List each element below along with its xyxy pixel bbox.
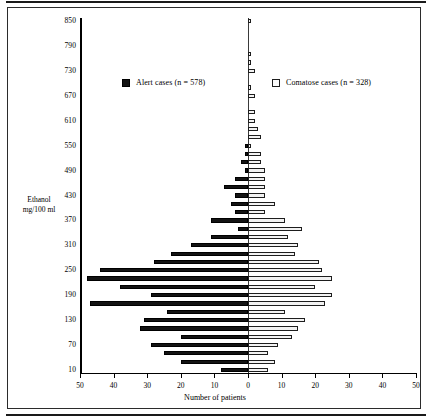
x-axis-tick	[80, 373, 81, 378]
open-square-swatch-icon	[272, 79, 280, 87]
x-axis-tick	[382, 373, 383, 378]
bar-comatose	[248, 85, 251, 89]
y-axis-tick-label: 490	[42, 167, 76, 175]
bar-alert	[211, 235, 248, 239]
bar-comatose	[248, 110, 255, 114]
y-axis-tick-label: 850	[42, 17, 76, 25]
bar-alert	[191, 243, 248, 247]
bar-comatose	[248, 276, 332, 280]
y-axis-tick-label: 310	[42, 241, 76, 249]
x-axis-tick	[147, 373, 148, 378]
bar-comatose	[248, 310, 285, 314]
x-axis-tick-label: 40	[369, 381, 395, 390]
bar-comatose	[248, 268, 322, 272]
bar-comatose	[248, 326, 298, 330]
bar-alert	[164, 351, 248, 355]
y-axis-tick-label: 250	[42, 266, 76, 274]
x-axis-tick-label: 20	[302, 381, 328, 390]
bar-comatose	[248, 343, 278, 347]
bar-comatose	[248, 285, 315, 289]
x-axis-tick	[248, 373, 249, 378]
x-axis-tick	[282, 373, 283, 378]
bar-alert	[235, 177, 248, 181]
bar-comatose	[248, 94, 255, 98]
y-axis-title-line1: Ethanol	[8, 195, 70, 205]
bar-comatose	[248, 260, 319, 264]
bar-alert	[221, 368, 248, 372]
filled-square-swatch-icon	[122, 79, 130, 87]
legend-item-alert: Alert cases (n = 578)	[122, 78, 205, 87]
bar-comatose	[248, 144, 251, 148]
bar-comatose	[248, 368, 268, 372]
x-axis-tick	[181, 373, 182, 378]
bar-alert	[100, 268, 248, 272]
x-axis-tick	[349, 373, 350, 378]
y-axis-tick-label: 730	[42, 67, 76, 75]
legend-item-comatose: Comatose cases (n = 328)	[272, 78, 371, 87]
bar-alert	[211, 218, 248, 222]
bar-alert	[90, 301, 248, 305]
x-axis-tick-label: 10	[269, 381, 295, 390]
bar-comatose	[248, 335, 292, 339]
x-axis-tick-label: 30	[134, 381, 160, 390]
x-axis-tick-label: 40	[101, 381, 127, 390]
y-axis-tick-label: 370	[42, 216, 76, 224]
y-axis-tick-label: 190	[42, 291, 76, 299]
bar-alert	[231, 202, 248, 206]
legend-label-alert: Alert cases (n = 578)	[136, 78, 205, 87]
bar-comatose	[248, 185, 265, 189]
bar-alert	[151, 293, 248, 297]
x-axis-tick-label: 30	[336, 381, 362, 390]
bar-alert	[171, 252, 248, 256]
bar-comatose	[248, 210, 265, 214]
chart-figure: 8507907306706105504904303703102501901307…	[0, 0, 430, 420]
bar-alert	[238, 227, 248, 231]
bar-comatose	[248, 52, 251, 56]
bar-comatose	[248, 293, 332, 297]
bar-alert	[235, 193, 248, 197]
x-axis-tick-label: 50	[67, 381, 93, 390]
bar-comatose	[248, 360, 275, 364]
bar-comatose	[248, 227, 302, 231]
y-axis-title-line2: mg/100 ml	[8, 205, 70, 215]
bar-comatose	[248, 69, 255, 73]
bar-alert	[167, 310, 248, 314]
bar-comatose	[248, 252, 295, 256]
bar-alert	[151, 343, 248, 347]
bar-alert	[120, 285, 248, 289]
bar-comatose	[248, 235, 288, 239]
bar-comatose	[248, 127, 258, 131]
bar-comatose	[248, 177, 265, 181]
y-axis-tick-label: 550	[42, 142, 76, 150]
y-axis-tick-label: 70	[42, 341, 76, 349]
bar-alert	[241, 160, 248, 164]
bar-comatose	[248, 351, 268, 355]
x-axis-tick-label: 50	[403, 381, 429, 390]
bar-comatose	[248, 193, 265, 197]
x-axis-tick	[416, 373, 417, 378]
y-axis-tick-label: 130	[42, 316, 76, 324]
y-axis-tick-label: 670	[42, 92, 76, 100]
bar-comatose	[248, 152, 261, 156]
bar-comatose	[248, 168, 265, 172]
y-axis-tick-label: 610	[42, 117, 76, 125]
x-axis-tick-label: 0	[235, 381, 261, 390]
y-axis-tick-label: 790	[42, 42, 76, 50]
x-axis-title: Number of patients	[0, 393, 430, 402]
bar-alert	[144, 318, 248, 322]
bar-alert	[224, 185, 248, 189]
bar-comatose	[248, 318, 305, 322]
y-axis-title: Ethanol mg/100 ml	[8, 195, 70, 214]
bar-comatose	[248, 301, 325, 305]
bar-comatose	[248, 243, 298, 247]
plot-area: 8507907306706105504904303703102501901307…	[0, 0, 430, 420]
x-axis-tick	[114, 373, 115, 378]
bar-alert	[235, 210, 248, 214]
bar-comatose	[248, 218, 285, 222]
bar-comatose	[248, 60, 251, 64]
bar-comatose	[248, 119, 255, 123]
bar-alert	[181, 335, 248, 339]
bar-comatose	[248, 202, 275, 206]
y-axis-tick-label: 10	[42, 366, 76, 374]
bar-alert	[87, 276, 248, 280]
